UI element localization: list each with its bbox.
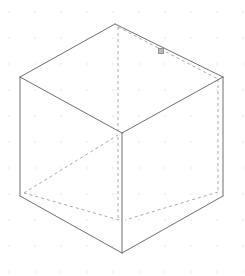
grid-dot — [60, 115, 61, 116]
grid-dot — [86, 245, 87, 246]
grid-dot — [138, 63, 139, 64]
grid-dot — [190, 271, 191, 272]
grid-dot — [34, 271, 35, 272]
grid-dot — [34, 11, 35, 12]
grid-dot — [60, 271, 61, 272]
grid-dot — [138, 115, 139, 116]
grid-dot — [34, 193, 35, 194]
grid-dot — [190, 115, 191, 116]
grid-dot — [34, 63, 35, 64]
grid-dot — [216, 193, 217, 194]
grid-dot — [34, 37, 35, 38]
grid-dot — [34, 115, 35, 116]
grid-dot — [164, 63, 165, 64]
grid-dot — [34, 89, 35, 90]
grid-dot — [112, 63, 113, 64]
grid-dot — [190, 11, 191, 12]
grid-dot — [112, 11, 113, 12]
grid-dot — [8, 63, 9, 64]
grid-dot — [138, 11, 139, 12]
grid-dot — [34, 167, 35, 168]
grid-dot — [112, 245, 113, 246]
grid-dot — [8, 167, 9, 168]
grid-dot — [60, 245, 61, 246]
grid-dot — [216, 89, 217, 90]
grid-dot — [8, 141, 9, 142]
grid-dot — [112, 115, 113, 116]
grid-dot — [112, 193, 113, 194]
grid-dot — [138, 37, 139, 38]
grid-dot — [164, 37, 165, 38]
grid-dot — [242, 193, 243, 194]
grid-dot — [216, 11, 217, 12]
grid-dot — [164, 11, 165, 12]
grid-dot — [60, 141, 61, 142]
grid-dot — [242, 245, 243, 246]
grid-dot — [8, 11, 9, 12]
grid-dot — [112, 37, 113, 38]
grid-dot — [8, 37, 9, 38]
grid-dot — [60, 167, 61, 168]
grid-dot — [86, 271, 87, 272]
grid-dot — [164, 271, 165, 272]
grid-dot — [86, 11, 87, 12]
grid-dot — [8, 245, 9, 246]
grid-dot — [34, 245, 35, 246]
grid-dot — [138, 219, 139, 220]
grid-dot — [112, 219, 113, 220]
grid-dot — [190, 219, 191, 220]
grid-dot — [242, 37, 243, 38]
grid-dot — [8, 219, 9, 220]
grid-dot — [8, 115, 9, 116]
grid-dot — [242, 167, 243, 168]
grid-dot — [60, 89, 61, 90]
grid-dot — [164, 115, 165, 116]
grid-dot — [86, 167, 87, 168]
grid-dot — [190, 141, 191, 142]
grid-dot — [8, 89, 9, 90]
grid-dot — [8, 271, 9, 272]
grid-dot — [216, 167, 217, 168]
grid-dot — [190, 63, 191, 64]
grid-dot — [86, 141, 87, 142]
grid-dot — [8, 193, 9, 194]
grid-dot-layer — [0, 0, 245, 276]
grid-dot — [190, 37, 191, 38]
grid-dot — [34, 141, 35, 142]
grid-dot — [216, 245, 217, 246]
grid-dot — [138, 193, 139, 194]
grid-dot — [86, 37, 87, 38]
grid-dot — [216, 271, 217, 272]
grid-dot — [190, 193, 191, 194]
grid-dot — [242, 141, 243, 142]
grid-dot — [112, 271, 113, 272]
grid-dot — [112, 167, 113, 168]
grid-dot — [216, 37, 217, 38]
grid-dot — [242, 89, 243, 90]
grid-dot — [138, 245, 139, 246]
grid-dot — [164, 193, 165, 194]
grid-dot — [138, 167, 139, 168]
drawing-canvas[interactable] — [0, 0, 245, 276]
grid-dot — [86, 89, 87, 90]
grid-dot — [190, 89, 191, 90]
grid-dot — [60, 37, 61, 38]
grid-dot — [190, 245, 191, 246]
grid-dot — [216, 115, 217, 116]
grid-dot — [86, 219, 87, 220]
grid-dot — [60, 63, 61, 64]
grid-dot — [112, 141, 113, 142]
grid-dot — [138, 141, 139, 142]
grid-dot — [60, 11, 61, 12]
grid-dot — [34, 219, 35, 220]
grid-dot — [60, 193, 61, 194]
grid-dot — [112, 89, 113, 90]
grid-dot — [138, 271, 139, 272]
grid-dot — [86, 193, 87, 194]
grid-dot — [216, 63, 217, 64]
grid-dot — [138, 89, 139, 90]
grid-dot — [164, 89, 165, 90]
grid-dot — [216, 141, 217, 142]
grid-dot — [242, 115, 243, 116]
grid-dot — [242, 271, 243, 272]
